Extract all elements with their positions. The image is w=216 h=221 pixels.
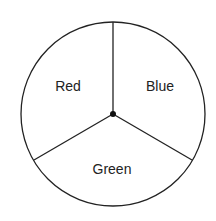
sector-label-green: Green — [93, 161, 132, 177]
center-dot — [110, 111, 116, 117]
sector-label-red: Red — [55, 78, 81, 94]
divider-lower-left — [34, 114, 113, 160]
pie-diagram: Red Blue Green — [0, 0, 216, 221]
divider-lower-right — [113, 114, 192, 160]
sector-label-blue: Blue — [146, 78, 174, 94]
